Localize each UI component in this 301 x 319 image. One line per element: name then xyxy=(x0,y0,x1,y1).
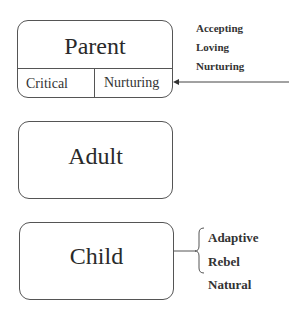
child-brace-connector xyxy=(174,228,204,273)
connectors xyxy=(0,0,301,319)
arrow-to-parent xyxy=(173,79,289,85)
